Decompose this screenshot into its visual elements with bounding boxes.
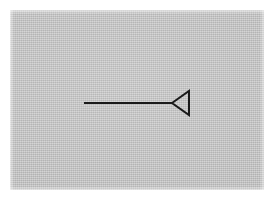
arrow-figure <box>0 0 274 201</box>
arrowhead-triangle-left-icon <box>172 91 189 115</box>
image-canvas <box>0 0 274 201</box>
